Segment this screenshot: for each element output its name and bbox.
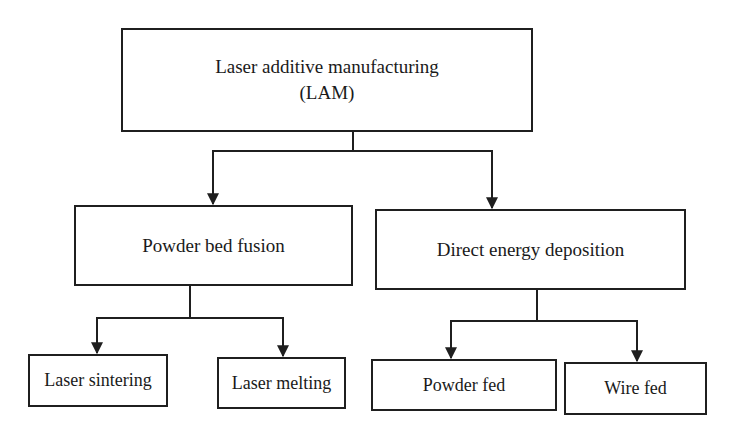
node-laser-melting: Laser melting — [217, 357, 346, 409]
node-label: Laser sintering — [44, 370, 151, 391]
node-label: Laser melting — [232, 373, 331, 394]
node-powder-fed: Powder fed — [371, 359, 557, 411]
node-label: Powder bed fusion — [142, 235, 284, 257]
node-label: Powder fed — [423, 375, 505, 396]
node-powder-bed-fusion: Powder bed fusion — [74, 205, 353, 286]
node-laser-sintering: Laser sintering — [28, 354, 168, 407]
node-label: Wire fed — [604, 378, 667, 399]
root-node-title: Laser additive manufacturing — [215, 54, 439, 80]
node-wire-fed: Wire fed — [564, 362, 707, 415]
root-node-subtitle: (LAM) — [300, 80, 355, 106]
root-node-laser-additive-manufacturing: Laser additive manufacturing (LAM) — [121, 28, 533, 132]
node-direct-energy-deposition: Direct energy deposition — [375, 209, 686, 290]
node-label: Direct energy deposition — [437, 239, 625, 261]
